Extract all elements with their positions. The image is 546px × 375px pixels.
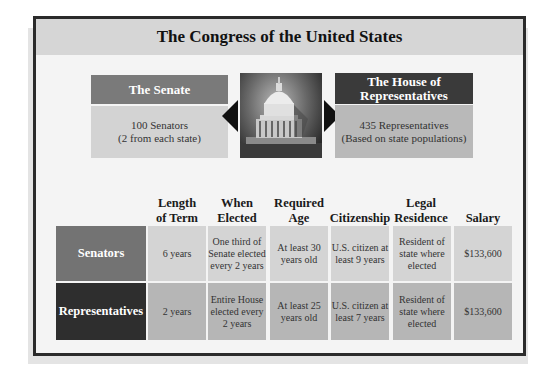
column-header-length-of-term: Lengthof Term [148,190,206,226]
row-label-senators: Senators [56,226,146,281]
row-label-representatives: Representatives [56,283,146,340]
table-cell: Resident of state where elected [393,226,451,281]
table-cell: One third of Senate elected every 2 year… [208,226,266,281]
senate-heading: The Senate [91,75,228,104]
senate-heading-text: The Senate [129,83,191,97]
congress-diagram: The Congress of the United States The Se… [33,16,526,356]
column-header-required-age: RequiredAge [269,190,329,226]
house-count: 435 Representatives [342,119,467,132]
column-header-legal-residence: LegalResidence [390,190,452,226]
house-heading-line2: Representatives [360,89,448,103]
table-cell: $133,600 [454,226,512,281]
table-cell: Entire House elected every 2 years [208,283,266,340]
table-cell: U.S. citizen at least 7 years [331,283,389,340]
capitol-dome-icon [240,73,322,158]
diagram-title: The Congress of the United States [157,27,403,47]
table-cell: $133,600 [454,283,512,340]
house-note: (Based on state populations) [342,132,467,145]
column-header-salary: Salary [454,190,512,226]
house-heading: The House of Representatives [335,73,473,104]
column-header-when-elected: WhenElected [208,190,266,226]
house-heading-line1: The House of [360,75,448,89]
arrow-left-icon [222,100,238,132]
senate-count: 100 Senators [118,119,201,132]
table-cell: At least 25 years old [270,283,328,340]
table-cell: 6 years [148,226,206,281]
title-band: The Congress of the United States [36,19,523,55]
table-cell: U.S. citizen at least 9 years [331,226,389,281]
table-cell: 2 years [148,283,206,340]
senate-description: 100 Senators (2 from each state) [91,106,228,158]
table-cell: Resident of state where elected [393,283,451,340]
house-description: 435 Representatives (Based on state popu… [335,105,473,158]
table-cell: At least 30 years old [270,226,328,281]
senate-note: (2 from each state) [118,132,201,145]
column-header-citizenship: Citizenship [328,190,392,226]
